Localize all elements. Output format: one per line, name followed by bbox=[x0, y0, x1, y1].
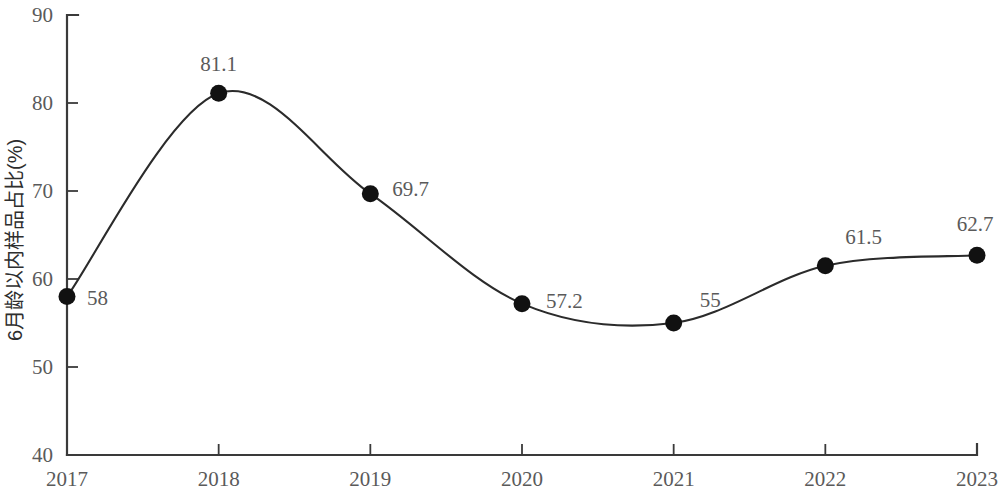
x-axis-tick-label: 2021 bbox=[653, 467, 695, 491]
y-axis-title: 6月龄以内样品占比(%) bbox=[4, 139, 26, 341]
data-point-marker bbox=[362, 185, 379, 202]
y-axis-tick-label: 70 bbox=[32, 179, 53, 203]
x-axis-ticks bbox=[219, 444, 826, 455]
y-axis-tick-label: 60 bbox=[32, 267, 53, 291]
series-markers bbox=[59, 85, 986, 332]
data-point-value-label: 69.7 bbox=[392, 177, 429, 201]
y-axis-tick-label: 90 bbox=[32, 3, 53, 27]
y-axis-tick-label: 50 bbox=[32, 355, 53, 379]
y-axis-tick-label: 80 bbox=[32, 91, 53, 115]
data-point-marker bbox=[969, 247, 986, 264]
series-line-6m-share bbox=[67, 91, 977, 326]
y-axis-tick-label: 40 bbox=[32, 443, 53, 467]
data-point-marker bbox=[59, 288, 76, 305]
chart-container: 405060708090 201720182019202020212022202… bbox=[0, 0, 1004, 494]
y-axis-line bbox=[67, 15, 78, 455]
x-axis-tick-label: 2017 bbox=[46, 467, 88, 491]
x-axis-tick-label: 2018 bbox=[198, 467, 240, 491]
y-axis-tick-labels: 405060708090 bbox=[32, 3, 53, 467]
data-point-value-label: 61.5 bbox=[845, 225, 882, 249]
data-point-value-label: 55 bbox=[700, 288, 721, 312]
line-chart: 405060708090 201720182019202020212022202… bbox=[0, 0, 1004, 494]
series-group bbox=[59, 85, 986, 332]
data-point-marker bbox=[817, 257, 834, 274]
x-axis-tick-label: 2019 bbox=[349, 467, 391, 491]
y-axis-ticks bbox=[67, 103, 78, 455]
x-axis-tick-labels: 2017201820192020202120222023 bbox=[46, 467, 998, 491]
data-point-value-label: 58 bbox=[87, 286, 108, 310]
x-axis-tick-label: 2022 bbox=[804, 467, 846, 491]
axis-group bbox=[67, 15, 977, 455]
data-point-marker bbox=[514, 295, 531, 312]
data-point-marker bbox=[210, 85, 227, 102]
x-axis-tick-label: 2023 bbox=[956, 467, 998, 491]
x-axis-tick-label: 2020 bbox=[501, 467, 543, 491]
data-point-value-label: 81.1 bbox=[200, 52, 237, 76]
data-point-value-label: 62.7 bbox=[957, 212, 994, 236]
data-point-value-label: 57.2 bbox=[546, 289, 583, 313]
data-point-marker bbox=[665, 315, 682, 332]
